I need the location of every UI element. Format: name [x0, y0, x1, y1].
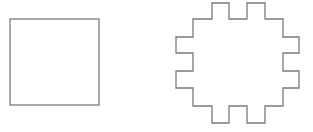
square-shape [10, 19, 99, 105]
notched-shape [176, 3, 299, 123]
diagram-canvas [0, 0, 313, 132]
